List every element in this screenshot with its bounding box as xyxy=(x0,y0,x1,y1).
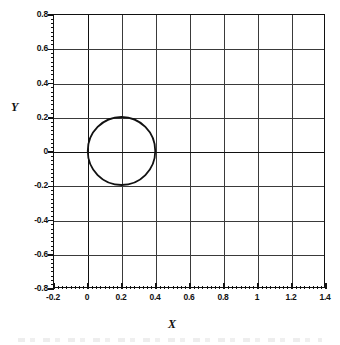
caption-scan-artifact xyxy=(18,338,322,342)
x-tick-label: -0.2 xyxy=(46,292,60,302)
x-tick-label: 0.4 xyxy=(149,292,160,302)
y-tick-label: -0.8 xyxy=(7,283,48,293)
x-tick-major xyxy=(325,283,327,289)
y-tick-label: -0.2 xyxy=(7,180,48,190)
y-tick-label: -0.4 xyxy=(7,215,48,225)
x-tick-label: 0.2 xyxy=(115,292,126,302)
y-tick-label: 0.2 xyxy=(7,112,48,122)
x-tick-label: 0.8 xyxy=(217,292,228,302)
data-curve-layer xyxy=(54,15,324,287)
y-tick-label: 0 xyxy=(7,146,48,156)
x-tick-label: 0.6 xyxy=(183,292,194,302)
data-curve-circle xyxy=(88,117,156,185)
y-tick-label: 0.6 xyxy=(7,43,48,53)
x-tick-label: 1 xyxy=(255,292,260,302)
x-axis-title: X xyxy=(168,317,176,332)
x-tick-label: 0 xyxy=(85,292,90,302)
figure-container: Y X -0.200.20.40.60.811.21.40.80.60.40.2… xyxy=(0,0,340,345)
y-tick-label: -0.6 xyxy=(7,249,48,259)
x-tick-label: 1.2 xyxy=(285,292,296,302)
y-tick-major xyxy=(48,288,54,290)
plot-area xyxy=(53,14,325,288)
y-tick-label: 0.8 xyxy=(7,9,48,19)
x-tick-label: 1.4 xyxy=(319,292,330,302)
y-tick-label: 0.4 xyxy=(7,78,48,88)
